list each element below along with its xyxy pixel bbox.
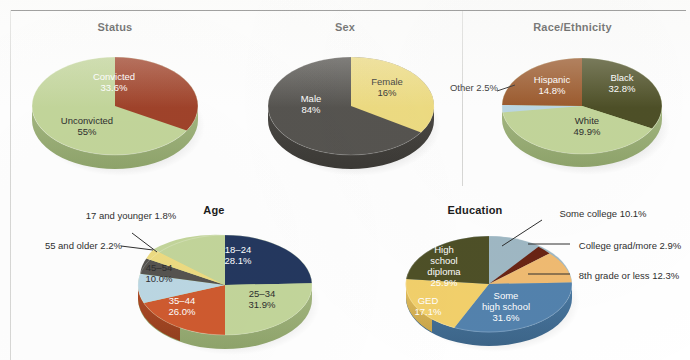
callout-name-age-55-older: 55 and older <box>45 240 98 251</box>
callout-name-some-college: Some college <box>559 208 617 219</box>
callout-pct-some-college: 10.1% <box>620 208 647 219</box>
chart-title-status: Status <box>10 21 220 33</box>
callout-pct-other: 2.5% <box>476 82 498 93</box>
chart-title-race: Race/Ethnicity <box>470 21 675 33</box>
callout-some-college: Some college 10.1% <box>538 208 668 219</box>
chart-panel-status: Status <box>10 14 220 186</box>
callout-pct-8th-grade-or-less: 12.3% <box>652 270 679 281</box>
pie-status <box>22 40 212 180</box>
callout-age-17-younger: 17 and younger 1.8% <box>76 210 186 221</box>
callout-age-55-older: 55 and older 2.2% <box>14 240 122 251</box>
callout-pct-age-55-older: 2.2% <box>100 240 122 251</box>
chart-panel-age: Age <box>14 196 354 360</box>
chart-panel-sex: Sex Male <box>240 14 450 186</box>
mid-divider-rule <box>462 11 463 186</box>
callout-name-8th-grade-or-less: 8th grade or less <box>579 270 650 281</box>
callout-pct-age-17-younger: 1.8% <box>155 210 177 221</box>
chart-title-education: Education <box>420 204 530 216</box>
chart-panel-education: Education <box>378 196 690 360</box>
callout-college-grad: College grad/more 2.9% <box>570 240 690 251</box>
figure-canvas: Status <box>0 0 690 360</box>
pie-sex <box>258 40 448 180</box>
leader-line-8th-grade-or-less <box>526 266 572 282</box>
pie-race <box>492 40 682 180</box>
chart-panel-race: Race/Ethnicity <box>470 14 688 186</box>
callout-8th-grade-or-less: 8th grade or less 12.3% <box>568 270 690 281</box>
chart-title-sex: Sex <box>240 21 450 33</box>
leader-line-other <box>496 78 518 96</box>
callout-name-other: Other <box>450 82 474 93</box>
callout-pct-college-grad: 2.9% <box>660 240 682 251</box>
top-horizontal-rule <box>10 10 686 11</box>
leader-line-college-grad <box>526 236 572 252</box>
callout-name-college-grad: College grad/more <box>579 240 657 251</box>
callout-name-age-17-younger: 17 and younger <box>86 210 152 221</box>
callout-other: Other 2.5% <box>432 82 498 93</box>
leader-line-age-17-younger <box>131 232 165 258</box>
